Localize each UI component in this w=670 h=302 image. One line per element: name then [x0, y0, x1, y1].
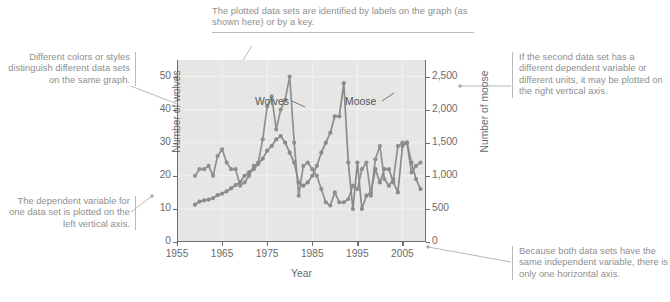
left-tick-label: 10	[137, 202, 171, 213]
right-tick-label: 2,500	[432, 70, 474, 81]
series-point	[396, 190, 400, 194]
series-point	[418, 161, 422, 165]
series-point	[193, 174, 197, 178]
annotation-right-vertical-axis: If the second data set has a different d…	[512, 52, 670, 98]
series-point	[288, 151, 292, 155]
series-point	[211, 174, 215, 178]
series-point	[292, 161, 296, 165]
figure-canvas: The plotted data sets are identified by …	[0, 0, 670, 302]
series-point	[288, 74, 292, 78]
right-axis-title: Number of moose	[479, 57, 490, 167]
series-point	[373, 157, 377, 161]
series-point	[355, 161, 359, 165]
series-point	[252, 167, 256, 171]
series-point	[197, 167, 201, 171]
annotation-top-data-labels: The plotted data sets are identified by …	[212, 6, 474, 33]
series-point	[229, 167, 233, 171]
series-point	[238, 184, 242, 188]
series-point	[247, 170, 251, 174]
series-point	[207, 164, 211, 168]
series-label-wolves: Wolves	[255, 96, 289, 107]
right-tick-label: 1,500	[432, 136, 474, 147]
series-point	[342, 200, 346, 204]
series-point	[342, 81, 346, 85]
x-tick-label: 1995	[337, 248, 377, 259]
right-tick	[426, 143, 430, 144]
left-tick-label: 30	[137, 136, 171, 147]
series-point	[310, 174, 314, 178]
right-tick-label: 1,000	[432, 169, 474, 180]
series-point	[261, 157, 265, 161]
series-point	[211, 196, 215, 200]
series-point	[216, 154, 220, 158]
series-point	[202, 167, 206, 171]
series-point	[337, 114, 341, 118]
right-tick	[426, 77, 430, 78]
x-tick-label: 1965	[202, 248, 242, 259]
dual-axis-line-chart: Wolves Moose 01020304050 05001,0001,5002…	[137, 50, 487, 255]
plot-area: Wolves Moose	[177, 60, 425, 242]
series-line-moose	[195, 83, 421, 209]
right-tick	[426, 209, 430, 210]
x-axis-title: Year	[177, 268, 426, 279]
x-tick	[312, 242, 313, 246]
left-tick-label: 0	[137, 235, 171, 246]
x-tick-label: 1975	[247, 248, 287, 259]
right-tick	[426, 110, 430, 111]
series-label-moose: Moose	[345, 96, 376, 107]
series-point	[238, 180, 242, 184]
series-point	[324, 200, 328, 204]
series-point	[225, 161, 229, 165]
series-point	[382, 177, 386, 181]
series-point	[234, 183, 238, 187]
left-tick	[173, 209, 177, 210]
series-point	[360, 167, 364, 171]
series-point	[274, 127, 278, 131]
series-point	[193, 203, 197, 207]
series-point	[301, 184, 305, 188]
series-point	[301, 164, 305, 168]
series-point	[216, 193, 220, 197]
series-point	[391, 180, 395, 184]
left-axis-title: Number of wolves	[171, 57, 182, 167]
series-point	[220, 192, 224, 196]
series-point	[270, 144, 274, 148]
series-point	[243, 180, 247, 184]
right-tick	[426, 176, 430, 177]
series-point	[333, 114, 337, 118]
series-point	[306, 180, 310, 184]
series-point	[382, 167, 386, 171]
x-tick-label: 2005	[382, 248, 422, 259]
series-point	[355, 187, 359, 191]
series-point	[409, 161, 413, 165]
series-point	[256, 162, 260, 166]
right-tick-label: 500	[432, 202, 474, 213]
series-point	[378, 180, 382, 184]
gridlines	[177, 60, 425, 242]
left-tick-label: 20	[137, 169, 171, 180]
series-point	[279, 108, 283, 112]
series-point	[373, 167, 377, 171]
series-point	[414, 164, 418, 168]
series-point	[346, 161, 350, 165]
series-point	[369, 190, 373, 194]
annotation-left-series-styles: Different colors or styles distinguish d…	[8, 52, 136, 86]
series-point	[387, 184, 391, 188]
annotation-bottom-horizontal-axis: Because both data sets have the same ind…	[512, 246, 670, 280]
left-tick-label: 50	[137, 70, 171, 81]
x-tick-label: 1985	[292, 248, 332, 259]
series-point	[405, 141, 409, 145]
series-point	[315, 174, 319, 178]
right-tick-label: 2,000	[432, 103, 474, 114]
series-point	[220, 147, 224, 151]
series-point	[414, 177, 418, 181]
series-point	[283, 141, 287, 145]
series-point	[274, 137, 278, 141]
series-point	[229, 186, 233, 190]
series-point	[207, 198, 211, 202]
series-line-wolves	[195, 77, 421, 206]
series-point	[387, 167, 391, 171]
series-point	[261, 137, 265, 141]
x-tick	[402, 242, 403, 246]
right-tick	[426, 242, 430, 243]
